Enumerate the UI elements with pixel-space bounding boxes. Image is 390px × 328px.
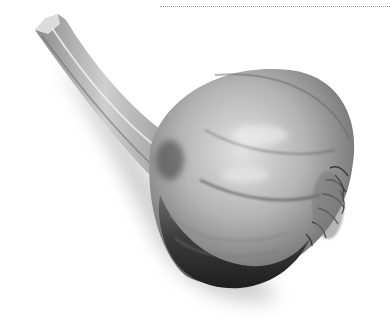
garlic-photo: [0, 0, 390, 328]
roots-fill: [312, 171, 344, 239]
